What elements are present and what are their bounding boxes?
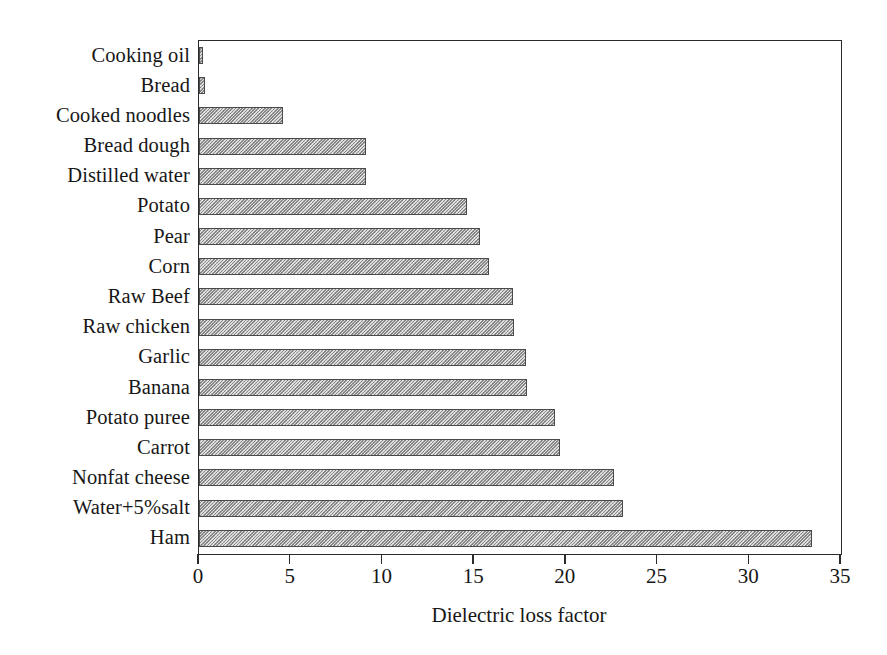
category-label: Pear [0,226,190,247]
x-tick-label: 5 [284,566,295,587]
x-tick-label: 10 [371,566,392,587]
category-label: Ham [0,527,190,548]
x-tick-mark [564,554,565,564]
category-label: Bread dough [0,135,190,156]
category-axis: Cooking oilBreadCooked noodlesBread doug… [0,40,190,553]
x-tick-mark [656,554,657,564]
x-tick-mark [197,554,198,564]
bar-row [199,463,841,493]
bar [199,500,623,517]
category-label: Corn [0,256,190,277]
dielectric-loss-factor-bar-chart: Cooking oilBreadCooked noodlesBread doug… [0,0,887,655]
category-label: Water+5%salt [0,497,190,518]
x-tick-label: 0 [193,566,204,587]
category-label: Carrot [0,437,190,458]
bar-row [199,494,841,524]
bar [199,47,203,64]
x-tick-mark [748,554,749,564]
bar [199,228,480,245]
bar-row [199,41,841,71]
bar-row [199,252,841,282]
bar-row [199,433,841,463]
category-label: Cooking oil [0,45,190,66]
x-tick-label: 25 [646,566,667,587]
bar [199,379,527,396]
bar [199,198,467,215]
bar [199,288,513,305]
bar-row [199,282,841,312]
bar-row [199,313,841,343]
bar-row [199,524,841,554]
bar-row [199,343,841,373]
bar [199,107,283,124]
bar-row [199,222,841,252]
x-tick-mark [472,554,473,564]
bar-row [199,403,841,433]
bar-row [199,71,841,101]
bar [199,138,366,155]
category-label: Distilled water [0,165,190,186]
bar [199,530,812,547]
x-tick-label: 30 [738,566,759,587]
category-label: Raw chicken [0,316,190,337]
x-axis-tick-labels: 05101520253035 [198,566,840,596]
category-label: Potato puree [0,407,190,428]
bar-row [199,162,841,192]
bar-row [199,132,841,162]
category-label: Banana [0,377,190,398]
bar [199,469,614,486]
category-label: Garlic [0,346,190,367]
plot-area [198,40,842,555]
bar [199,77,205,94]
bar [199,258,489,275]
category-label: Bread [0,75,190,96]
x-tick-mark [839,554,840,564]
bar [199,319,514,336]
bar [199,168,366,185]
x-tick-mark [289,554,290,564]
bar-row [199,373,841,403]
category-label: Potato [0,195,190,216]
x-tick-label: 15 [463,566,484,587]
category-label: Cooked noodles [0,105,190,126]
bar [199,349,526,366]
x-axis-title: Dielectric loss factor [198,605,840,626]
bar-row [199,192,841,222]
bar [199,409,555,426]
bar-row [199,101,841,131]
category-label: Raw Beef [0,286,190,307]
x-tick-mark [381,554,382,564]
x-tick-label: 35 [830,566,851,587]
category-label: Nonfat cheese [0,467,190,488]
bar [199,439,560,456]
x-tick-label: 20 [554,566,575,587]
